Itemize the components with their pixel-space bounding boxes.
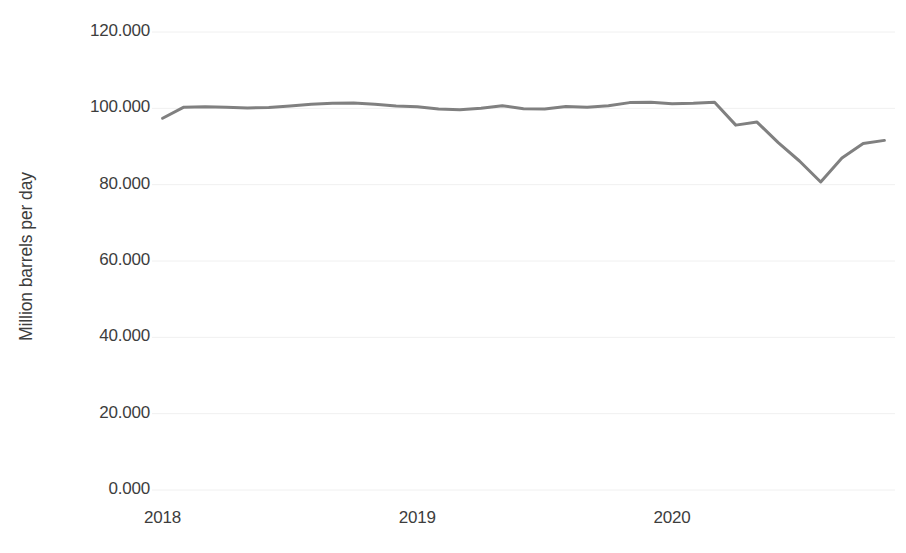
x-axis-tick-label: 2020 [612, 508, 732, 528]
line-chart: Million barrels per day 120.000100.00080… [0, 0, 906, 553]
x-axis-tick-labels: 201820192020 [0, 0, 906, 553]
cut-off-footer-text [6, 541, 306, 553]
x-axis-tick-label: 2019 [357, 508, 477, 528]
x-axis-tick-label: 2018 [103, 508, 223, 528]
